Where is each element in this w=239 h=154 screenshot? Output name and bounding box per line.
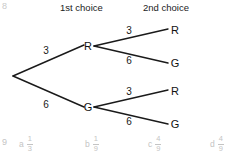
weight-root-to-r: 3: [41, 45, 51, 56]
fraction-denominator: 9: [218, 145, 224, 153]
fraction-numerator: 1: [93, 135, 99, 143]
answer-options-row: 9 a 1 3 b 1 9 c 4 9: [0, 133, 239, 154]
fraction-denominator: 9: [93, 145, 99, 153]
fraction-numerator: 4: [218, 135, 224, 143]
fraction-denominator: 3: [27, 145, 33, 153]
answer-fraction-b: 1 9: [93, 135, 99, 153]
question-number-bottom: 9: [2, 137, 7, 148]
node-level1-g: G: [82, 101, 94, 113]
leaf-r-r: R: [169, 24, 181, 36]
fraction-numerator: 4: [155, 135, 161, 143]
tree-branches: [0, 0, 239, 154]
leaf-g-g: G: [169, 118, 181, 130]
weight-g-to-r: 3: [124, 86, 134, 97]
weight-g-to-g: 6: [124, 116, 134, 127]
node-level1-r: R: [82, 40, 94, 52]
fraction-denominator: 9: [155, 145, 161, 153]
answer-letter-c: c: [148, 139, 152, 149]
answer-fraction-d: 4 9: [218, 135, 224, 153]
answer-option-c[interactable]: c 4 9: [148, 135, 161, 153]
fraction-numerator: 1: [27, 135, 33, 143]
answer-option-d[interactable]: d 4 9: [210, 135, 224, 153]
answer-option-a[interactable]: a 1 3: [19, 135, 33, 153]
answer-option-b[interactable]: b 1 9: [85, 135, 99, 153]
answer-letter-d: d: [210, 139, 215, 149]
probability-tree-diagram: 8 1st choice 2nd choice R G 3 6 R G R G …: [0, 0, 239, 154]
answer-fraction-a: 1 3: [27, 135, 33, 153]
weight-root-to-g: 6: [41, 99, 51, 110]
answer-fraction-c: 4 9: [155, 135, 161, 153]
weight-r-to-r: 3: [124, 25, 134, 36]
answer-letter-b: b: [85, 139, 90, 149]
weight-r-to-g: 6: [124, 55, 134, 66]
leaf-r-g: G: [169, 57, 181, 69]
leaf-g-r: R: [169, 85, 181, 97]
answer-letter-a: a: [19, 139, 24, 149]
